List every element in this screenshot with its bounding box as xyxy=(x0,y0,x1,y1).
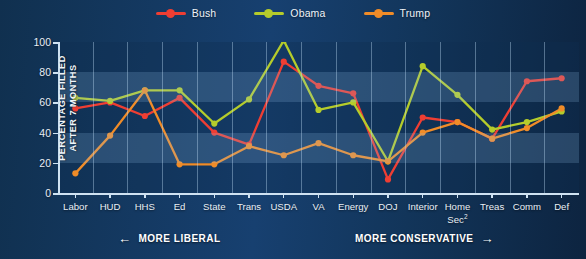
arrow-left-icon: ← xyxy=(118,232,132,245)
y-axis-title: PERCENTAGE FILLED AFTER 7 MONTHS xyxy=(2,55,28,185)
annotation-more-liberal: ← MORE LIBERAL xyxy=(118,232,221,245)
gridline-vertical xyxy=(232,42,233,193)
data-point-obama xyxy=(420,63,426,69)
x-tick-label: HUD xyxy=(100,202,121,212)
gridline-vertical xyxy=(405,42,406,193)
chart-legend: Bush Obama Trump xyxy=(0,7,586,19)
x-tick-label: USDA xyxy=(270,202,297,212)
legend-item-obama: Obama xyxy=(254,7,325,19)
x-tick-label: Trans xyxy=(237,202,261,212)
legend-label-bush: Bush xyxy=(192,7,217,19)
y-tick-label: 60 xyxy=(39,96,51,108)
y-tick-label: 40 xyxy=(39,127,51,139)
arrow-right-icon: → xyxy=(481,232,495,245)
data-point-bush xyxy=(142,113,148,119)
gridline-vertical xyxy=(510,42,511,193)
series-lines xyxy=(58,42,579,193)
gridline-vertical xyxy=(544,42,545,193)
data-point-trump xyxy=(454,119,460,125)
gridline-vertical xyxy=(197,42,198,193)
data-point-bush xyxy=(281,59,287,65)
x-tick-label: VA xyxy=(312,202,324,212)
y-tick-label: 20 xyxy=(39,157,51,169)
x-tick-label: Labor xyxy=(63,202,88,212)
annotation-more-liberal-label: MORE LIBERAL xyxy=(139,233,221,244)
legend-swatch-obama-icon xyxy=(254,8,284,18)
gridline-vertical xyxy=(440,42,441,193)
gridline-vertical xyxy=(371,42,372,193)
y-axis-title-line1: PERCENTAGE FILLED xyxy=(57,55,68,160)
x-tick-label: Def xyxy=(554,202,569,212)
legend-item-bush: Bush xyxy=(156,7,217,19)
x-tick-label: HomeSec2 xyxy=(445,202,471,225)
legend-label-trump: Trump xyxy=(400,7,431,19)
y-axis-title-line2: AFTER 7 MONTHS xyxy=(68,65,79,152)
data-point-trump xyxy=(524,125,530,131)
gridline-vertical xyxy=(301,42,302,193)
gridline-vertical xyxy=(93,42,94,193)
legend-label-obama: Obama xyxy=(290,7,325,19)
data-point-bush xyxy=(420,114,426,120)
x-tick-label: HHS xyxy=(135,202,155,212)
x-tick-label: Interior xyxy=(408,202,438,212)
annotation-more-conservative: MORE CONSERVATIVE → xyxy=(355,232,494,245)
y-tick-label: 0 xyxy=(45,187,51,199)
annotation-more-conservative-label: MORE CONSERVATIVE xyxy=(355,233,474,244)
data-point-obama xyxy=(211,120,217,126)
legend-item-trump: Trump xyxy=(364,7,431,19)
y-tick-label: 80 xyxy=(39,66,51,78)
x-axis-line xyxy=(58,193,579,195)
gridline-vertical xyxy=(266,42,267,193)
gridline-vertical xyxy=(162,42,163,193)
chart-container: Bush Obama Trump PERCENTAGE FILLED AFTER… xyxy=(0,0,586,259)
data-point-obama xyxy=(524,119,530,125)
x-tick-label: Treas xyxy=(480,202,504,212)
data-point-bush xyxy=(385,176,391,182)
x-tick-label: Ed xyxy=(174,202,186,212)
x-tick-label: DOJ xyxy=(378,202,397,212)
background-band xyxy=(58,133,579,163)
x-tick-label: Energy xyxy=(338,202,368,212)
y-tick-label: 100 xyxy=(33,36,51,48)
axis-direction-annotations: ← MORE LIBERAL MORE CONSERVATIVE → xyxy=(0,232,586,254)
gridline-vertical xyxy=(127,42,128,193)
data-point-trump xyxy=(559,105,565,111)
data-point-obama xyxy=(315,107,321,113)
legend-swatch-trump-icon xyxy=(364,8,394,18)
x-tick-label: State xyxy=(203,202,225,212)
gridline-vertical xyxy=(475,42,476,193)
gridline-vertical xyxy=(336,42,337,193)
legend-swatch-bush-icon xyxy=(156,8,186,18)
plot-area: 020406080100 LaborHUDHHSEdStateTransUSDA… xyxy=(58,42,579,193)
background-band xyxy=(58,72,579,102)
x-tick-label: Comm xyxy=(513,202,541,212)
